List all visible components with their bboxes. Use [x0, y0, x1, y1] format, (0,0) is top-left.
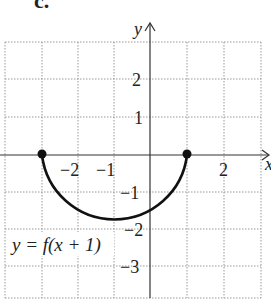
- endpoint-right: [183, 150, 192, 159]
- x-tick-neg1: −1: [96, 160, 115, 180]
- y-axis-label: y: [132, 19, 142, 39]
- x-tick-2: 2: [219, 160, 228, 180]
- y-tick-neg1: −1: [120, 183, 139, 203]
- endpoint-left: [38, 150, 47, 159]
- x-tick-labels: −2 −1 2: [60, 160, 228, 180]
- graph: c. y x −2 −1 2 2 1 −1 −2 −3: [0, 0, 271, 306]
- x-tick-neg2: −2: [60, 160, 79, 180]
- y-tick-neg3: −3: [120, 257, 139, 277]
- y-tick-2: 2: [132, 70, 141, 90]
- y-tick-neg2: −2: [124, 220, 143, 240]
- panel-label: c.: [34, 0, 49, 13]
- x-axis-label: x: [264, 154, 271, 174]
- y-tick-1: 1: [134, 108, 143, 128]
- y-tick-labels: 2 1 −1 −2 −3: [120, 70, 143, 277]
- equation-label: y = f(x + 1): [10, 234, 101, 256]
